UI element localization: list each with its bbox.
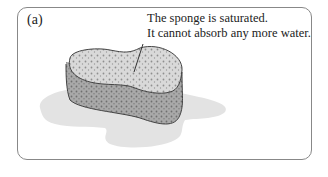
- caption-line-2: It cannot absorb any more water.: [147, 26, 311, 41]
- panel-label: (a): [27, 12, 43, 28]
- caption: The sponge is saturated. It cannot absor…: [147, 11, 311, 41]
- caption-line-1: The sponge is saturated.: [147, 11, 311, 26]
